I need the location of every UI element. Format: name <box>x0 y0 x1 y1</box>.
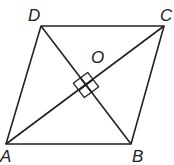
right-angle-marks <box>73 72 98 97</box>
vertex-label-b: B <box>132 147 143 165</box>
vertex-label-d: D <box>28 6 40 25</box>
rhombus-diagram: D C O A B <box>0 0 174 165</box>
vertex-label-c: C <box>160 6 173 25</box>
vertex-label-a: A <box>0 147 11 165</box>
diagram-svg: D C O A B <box>0 0 174 165</box>
center-label-o: O <box>91 48 104 67</box>
